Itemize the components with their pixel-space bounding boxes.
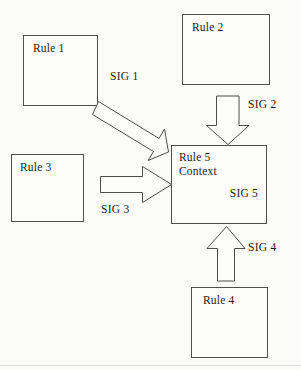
rule-box-label-rule-4: Rule 4 [203,294,235,306]
sig-2-arrow-icon [207,96,250,145]
rule-box-label-rule-5: Rule 5 [179,151,211,163]
signal-label-sig-3: SIG 3 [101,203,130,215]
rule-box-label-sig-5: SIG 5 [230,187,258,199]
rule-box-rule-1: Rule 1 [23,35,98,106]
signal-label-sig-1: SIG 1 [110,70,139,82]
sig-1-arrow-icon [93,102,169,161]
rule-box-rule-3: Rule 3 [11,154,84,222]
rule-box-label-rule-2: Rule 2 [192,21,224,33]
rule-box-rule-4: Rule 4 [191,287,268,358]
scan-artifact-line [0,365,301,366]
signal-label-sig-2: SIG 2 [248,98,277,110]
rule-box-label-rule-1: Rule 1 [33,42,65,54]
rule-context-diagram: Rule 1 Rule 2 Rule 3 Rule 4 Rule 5 Conte… [0,0,301,370]
sig-4-arrow-icon [207,227,245,282]
sig-3-arrow-icon [101,167,172,203]
signal-label-sig-4: SIG 4 [248,241,277,253]
rule-box-label-rule-3: Rule 3 [20,161,52,173]
rule-box-rule-5-context: Rule 5 Context SIG 5 [171,145,267,224]
rule-box-rule-2: Rule 2 [182,14,270,85]
rule-box-label-context: Context [179,165,217,177]
